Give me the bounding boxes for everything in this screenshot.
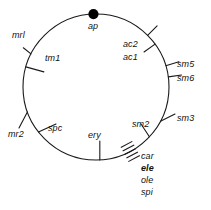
- locus-label-sm6: sm6: [177, 74, 194, 83]
- tick-ac2: [148, 26, 157, 35]
- hatch-cluster-car-ele-ole-spi: [121, 141, 140, 161]
- locus-label-ap: ap: [88, 22, 98, 31]
- locus-label-ole: ole: [141, 176, 153, 185]
- tick-tm1: [26, 67, 44, 72]
- locus-label-sm2: sm2: [132, 120, 149, 129]
- locus-label-ac2: ac2: [123, 40, 138, 49]
- locus-label-mrl: mrl: [12, 31, 25, 40]
- locus-label-tm1: tm1: [45, 54, 60, 63]
- locus-label-ery: ery: [88, 131, 101, 140]
- locus-label-sm5: sm5: [177, 60, 194, 69]
- map-canvas: [0, 0, 211, 210]
- locus-label-mr2: mr2: [8, 130, 24, 139]
- locus-label-spi: spi: [141, 188, 153, 197]
- locus-label-spc: spc: [48, 124, 62, 133]
- locus-label-ac1: ac1: [123, 53, 138, 62]
- tick-mr2: [19, 112, 27, 128]
- locus-label-car: car: [141, 152, 154, 161]
- tick-ac1: [144, 44, 155, 52]
- tick-mrl: [23, 48, 31, 54]
- circular-genetic-map-figure: ap mrl tm1 ac2 ac1 sm5 sm6 sm3 sm2 mr2 s…: [0, 0, 211, 210]
- origin-dot-icon: [88, 9, 98, 19]
- locus-label-sm3: sm3: [177, 114, 194, 123]
- locus-label-ele: ele: [141, 164, 154, 173]
